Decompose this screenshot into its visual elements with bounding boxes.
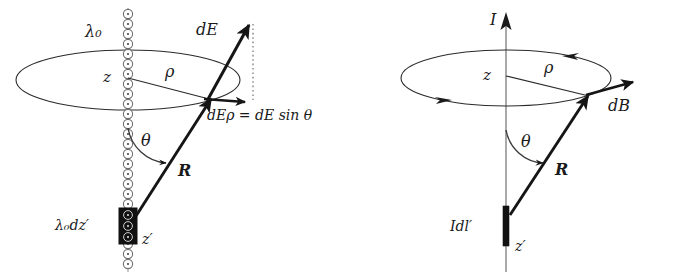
radius-line-rho-magnetic xyxy=(506,76,589,96)
label-rho-electric: ρ xyxy=(165,64,174,80)
magnetic-field-drawing xyxy=(340,0,679,275)
label-z-prime-electric: z′ xyxy=(142,232,153,246)
label-dB-prefix: d xyxy=(608,96,618,115)
vector-dB xyxy=(586,82,633,95)
physics-figure: λ₀ z ρ dE dEρ = dE sin θ θ R λ₀dz′ z′ xyxy=(0,0,679,275)
label-dB-vector: dB xyxy=(608,98,630,114)
panel-electric-field: λ₀ z ρ dE dEρ = dE sin θ θ R λ₀dz′ z′ xyxy=(0,0,340,275)
label-theta-magnetic: θ xyxy=(521,134,531,150)
electric-field-drawing xyxy=(0,0,340,275)
circulation-arrowhead-bottom xyxy=(435,97,452,104)
label-lambda0: λ₀ xyxy=(85,24,102,40)
source-current-element xyxy=(503,206,509,246)
label-rho-magnetic: ρ xyxy=(544,60,553,76)
label-z-electric: z xyxy=(103,70,111,85)
label-dE-symbol: E xyxy=(206,20,218,39)
label-Idl-prime: Idl′ xyxy=(450,219,472,233)
label-lambda0-dz: λ₀dz′ xyxy=(55,218,89,232)
label-dB-symbol: B xyxy=(618,96,630,115)
label-dE-vector: dE xyxy=(196,22,218,38)
label-theta-electric: θ xyxy=(141,133,151,149)
label-dE-prefix: d xyxy=(196,20,206,39)
label-dE-rho-equation: dEρ = dE sin θ xyxy=(207,108,312,122)
circulation-arrowhead-top xyxy=(562,53,579,60)
panel-magnetic-field: I z ρ dB θ R Idl′ z′ xyxy=(340,0,679,275)
label-current-I: I xyxy=(490,12,496,28)
label-z-magnetic: z xyxy=(483,68,491,83)
label-R-magnetic: R xyxy=(555,162,568,178)
label-z-prime-magnetic: z′ xyxy=(515,239,526,253)
radius-line-rho xyxy=(128,78,213,100)
label-R-electric: R xyxy=(178,163,191,179)
